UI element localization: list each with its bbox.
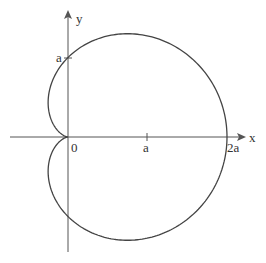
- x-tick-2a-label: 2a: [227, 140, 240, 155]
- cardioid-diagram: y x 0 a 2a a: [0, 0, 266, 263]
- x-axis-label: x: [249, 130, 256, 145]
- y-axis-label: y: [76, 11, 83, 26]
- y-tick-a-label: a: [56, 50, 62, 65]
- x-tick-a-label: a: [143, 140, 149, 155]
- origin-label: 0: [71, 140, 78, 155]
